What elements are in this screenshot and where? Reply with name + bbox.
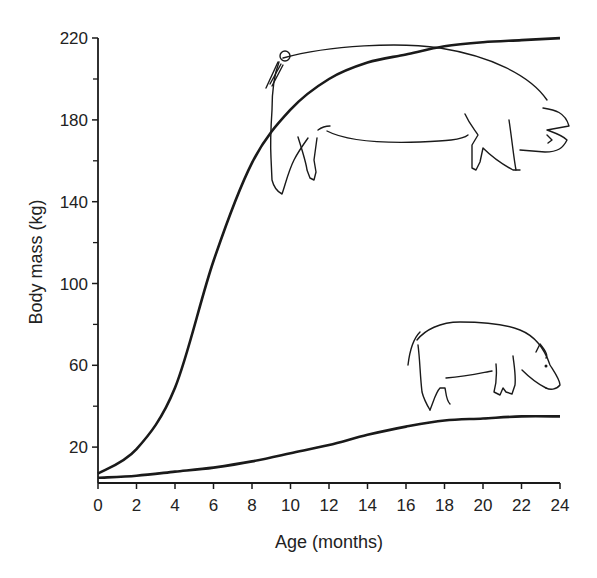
x-tick-label: 22 [512,496,531,515]
x-tick-label: 24 [551,496,570,515]
small-pig-illustration [408,322,560,410]
axes [92,38,560,489]
x-tick-label: 0 [93,496,102,515]
y-tick-label: 100 [60,275,88,294]
tick-labels: 0246810121416182022242060100140180220 [60,29,570,515]
y-tick-label: 140 [60,193,88,212]
y-tick-label: 180 [60,111,88,130]
x-tick-label: 10 [281,496,300,515]
x-tick-label: 2 [132,496,141,515]
growth-chart: 0246810121416182022242060100140180220 Ag… [0,0,597,578]
large-pig-growth-curve [98,38,560,474]
y-tick-label: 60 [69,356,88,375]
chart-canvas: 0246810121416182022242060100140180220 Ag… [0,0,597,578]
y-tick-label: 220 [60,29,88,48]
x-tick-label: 8 [247,496,256,515]
x-tick-label: 14 [358,496,377,515]
y-axis-label: Body mass (kg) [26,199,46,324]
x-tick-label: 20 [474,496,493,515]
x-tick-label: 6 [209,496,218,515]
x-tick-label: 4 [170,496,179,515]
x-tick-label: 12 [320,496,339,515]
small-pig-growth-curve [98,416,560,478]
x-tick-label: 16 [397,496,416,515]
x-axis-label: Age (months) [275,532,383,552]
x-tick-label: 18 [435,496,454,515]
large-pig-illustration [266,45,569,194]
y-tick-label: 20 [69,438,88,457]
